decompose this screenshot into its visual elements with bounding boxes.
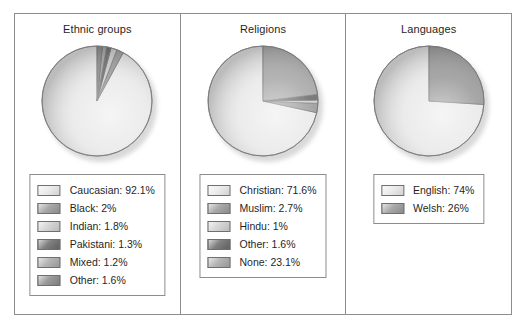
pie-container-languages bbox=[346, 41, 511, 161]
legend-swatch-mixed bbox=[38, 257, 61, 268]
legend-item: Christian: 71.6% bbox=[207, 181, 316, 199]
panel-languages: LanguagesEnglish: 74%Welsh: 26% bbox=[345, 14, 511, 314]
legend-swatch-indian bbox=[38, 221, 61, 232]
figure-frame: Ethnic groupsCaucasian: 92.1%Black: 2%In… bbox=[14, 13, 512, 315]
legend-label: English: 74% bbox=[413, 184, 474, 196]
panel-title-languages: Languages bbox=[346, 23, 511, 36]
legend-ethnic: Caucasian: 92.1%Black: 2%Indian: 1.8%Pak… bbox=[30, 174, 165, 296]
legend-swatch-welsh bbox=[381, 203, 404, 214]
legend-label: Christian: 71.6% bbox=[239, 184, 316, 196]
legend-swatch-christian bbox=[207, 185, 230, 196]
legend-label: Indian: 1.8% bbox=[70, 220, 128, 232]
legend-languages: English: 74%Welsh: 26% bbox=[373, 174, 484, 224]
panel-ethnic: Ethnic groupsCaucasian: 92.1%Black: 2%In… bbox=[15, 14, 180, 314]
legend-label: Other: 1.6% bbox=[239, 238, 295, 250]
legend-label: Pakistani: 1.3% bbox=[70, 238, 142, 250]
panel-title-religions: Religions bbox=[181, 23, 346, 36]
legend-label: Caucasian: 92.1% bbox=[70, 184, 155, 196]
legend-label: Welsh: 26% bbox=[413, 202, 469, 214]
pie-chart-ethnic bbox=[41, 45, 153, 157]
legend-label: Other: 1.6% bbox=[70, 274, 126, 286]
legend-swatch-other bbox=[38, 275, 61, 286]
pie-shadow-religions bbox=[207, 45, 319, 157]
legend-label: Muslim: 2.7% bbox=[239, 202, 302, 214]
panel-title-ethnic: Ethnic groups bbox=[15, 23, 180, 36]
pie-shadow-languages bbox=[373, 45, 485, 157]
legend-item: Muslim: 2.7% bbox=[207, 199, 316, 217]
legend-item: Welsh: 26% bbox=[381, 199, 474, 217]
legend-swatch-hindu bbox=[207, 221, 230, 232]
pie-container-religions bbox=[181, 41, 346, 161]
legend-label: None: 23.1% bbox=[239, 256, 300, 268]
legend-item: Other: 1.6% bbox=[207, 235, 316, 253]
legend-item: Pakistani: 1.3% bbox=[38, 235, 155, 253]
legend-swatch-caucasian bbox=[38, 185, 61, 196]
legend-swatch-english bbox=[381, 185, 404, 196]
pie-chart-languages bbox=[373, 45, 485, 157]
legend-label: Hindu: 1% bbox=[239, 220, 287, 232]
legend-label: Black: 2% bbox=[70, 202, 117, 214]
legend-swatch-none bbox=[207, 257, 230, 268]
legend-label: Mixed: 1.2% bbox=[70, 256, 128, 268]
pie-slice-none bbox=[263, 46, 318, 101]
legend-item: None: 23.1% bbox=[207, 253, 316, 271]
pie-shadow-ethnic bbox=[41, 45, 153, 157]
pie-chart-religions bbox=[207, 45, 319, 157]
pie-slice-welsh bbox=[429, 46, 484, 104]
legend-religions: Christian: 71.6%Muslim: 2.7%Hindu: 1%Oth… bbox=[199, 174, 326, 278]
panel-religions: ReligionsChristian: 71.6%Muslim: 2.7%Hin… bbox=[180, 14, 346, 314]
legend-item: Hindu: 1% bbox=[207, 217, 316, 235]
pie-container-ethnic bbox=[15, 41, 180, 161]
legend-swatch-pakistani bbox=[38, 239, 61, 250]
legend-item: Other: 1.6% bbox=[38, 271, 155, 289]
legend-swatch-muslim bbox=[207, 203, 230, 214]
legend-swatch-other bbox=[207, 239, 230, 250]
legend-item: Black: 2% bbox=[38, 199, 155, 217]
legend-item: Caucasian: 92.1% bbox=[38, 181, 155, 199]
legend-item: Indian: 1.8% bbox=[38, 217, 155, 235]
legend-item: Mixed: 1.2% bbox=[38, 253, 155, 271]
legend-swatch-black bbox=[38, 203, 61, 214]
legend-item: English: 74% bbox=[381, 181, 474, 199]
